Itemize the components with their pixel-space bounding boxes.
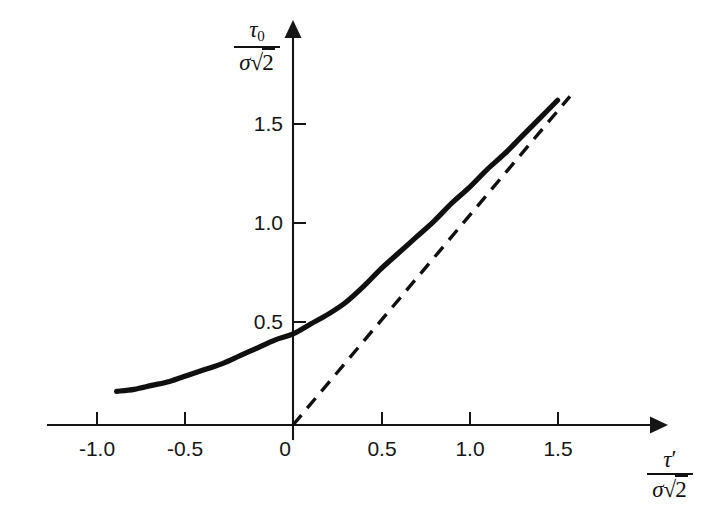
- chart-canvas: -1.0 -0.5 0 0.5 1.0 1.5 0.5 1.0 1.5: [0, 0, 713, 518]
- x-tick-marks: [97, 412, 558, 425]
- sqrt-icon: √2: [664, 478, 688, 501]
- radicand: 2: [675, 475, 688, 502]
- x-tick-label: 0: [279, 437, 291, 460]
- tau0-solid-curve: [117, 100, 558, 391]
- y-tick-labels: 0.5 1.0 1.5: [254, 112, 283, 333]
- right-arrow-icon: [650, 417, 668, 434]
- sqrt-icon: √2: [251, 51, 275, 74]
- x-axis-label-numerator: τ′: [647, 447, 692, 472]
- sigma-symbol: σ: [239, 50, 250, 75]
- x-tick-label: -1.0: [79, 437, 115, 460]
- x-tick-label: 1.0: [455, 437, 484, 460]
- sigma-symbol: σ: [652, 477, 663, 502]
- y-axis-label-fraction: τ0 σ√2: [234, 18, 279, 74]
- x-tick-label: 0.5: [367, 437, 396, 460]
- prime-symbol: ′: [672, 446, 677, 471]
- x-axis-group: [47, 417, 668, 434]
- x-axis-label: τ′ σ√2: [630, 447, 710, 501]
- y-tick-label: 0.5: [254, 310, 283, 333]
- tau-subscript: 0: [257, 28, 265, 44]
- y-axis-label-denominator: σ√2: [234, 50, 279, 74]
- y-tick-marks: [293, 124, 306, 322]
- x-tick-label: 1.5: [543, 437, 572, 460]
- y-axis-group: [285, 20, 302, 440]
- x-axis-label-denominator: σ√2: [647, 477, 692, 501]
- x-axis-label-fraction: τ′ σ√2: [647, 447, 692, 501]
- y-tick-label: 1.0: [254, 211, 283, 234]
- y-tick-label: 1.5: [254, 112, 283, 135]
- y-axis-label-numerator: τ0: [234, 18, 279, 45]
- tau-symbol: τ: [663, 447, 671, 472]
- x-tick-label: -0.5: [167, 437, 203, 460]
- y-axis-label: τ0 σ√2: [222, 18, 292, 74]
- figure-container: -1.0 -0.5 0 0.5 1.0 1.5 0.5 1.0 1.5 τ0 σ…: [0, 0, 713, 518]
- x-tick-labels: -1.0 -0.5 0 0.5 1.0 1.5: [79, 437, 573, 460]
- radicand: 2: [262, 48, 275, 75]
- asymptote-dashed-line: [293, 96, 570, 425]
